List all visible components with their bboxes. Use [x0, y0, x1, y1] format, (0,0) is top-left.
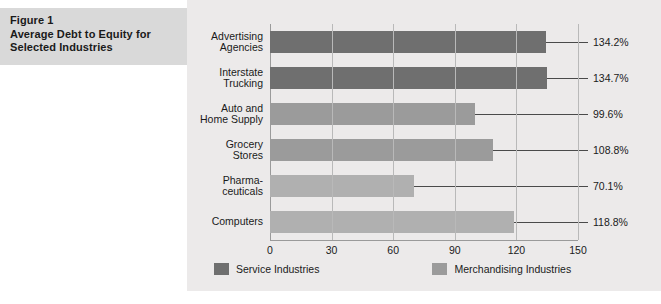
value-label: 99.6%: [593, 108, 623, 120]
value-label: 134.7%: [593, 72, 629, 84]
value-label: 118.8%: [593, 216, 628, 228]
category-label: Pharma-ceuticals: [113, 175, 263, 198]
bar: [270, 139, 493, 161]
plot-area: AdvertisingAgencies134.2%InterstateTruck…: [270, 24, 578, 240]
value-leader-line: [475, 114, 588, 115]
chart-legend: Service IndustriesMerchandising Industri…: [214, 263, 661, 275]
value-leader-line: [546, 42, 588, 43]
legend-swatch: [432, 263, 447, 275]
bar: [270, 31, 546, 53]
x-axis-tick-label: 120: [508, 244, 526, 256]
legend-item: Merchandising Industries: [432, 263, 571, 275]
chart-panel: AdvertisingAgencies134.2%InterstateTruck…: [187, 0, 661, 291]
gridline: [578, 24, 579, 240]
value-leader-line: [547, 78, 588, 79]
x-axis-tick-label: 90: [449, 244, 461, 256]
category-label: Computers: [113, 216, 263, 228]
x-axis-tick-label: 30: [326, 244, 338, 256]
bar: [270, 67, 547, 89]
legend-label: Merchandising Industries: [454, 263, 571, 275]
value-leader-line: [414, 186, 588, 187]
x-axis-tick-label: 150: [569, 244, 587, 256]
gridline: [455, 24, 456, 240]
gridline: [516, 24, 517, 240]
category-label: GroceryStores: [113, 139, 263, 162]
gridline: [393, 24, 394, 240]
gridline: [332, 24, 333, 240]
x-axis-line: [270, 240, 578, 241]
figure-number: Figure 1: [10, 14, 177, 28]
bar: [270, 103, 475, 125]
legend-item: Service Industries: [214, 263, 319, 275]
figure-container: Figure 1 Average Debt to Equity for Sele…: [0, 0, 661, 304]
x-axis-tick-label: 60: [387, 244, 399, 256]
legend-label: Service Industries: [236, 263, 319, 275]
category-label: AdvertisingAgencies: [113, 31, 263, 54]
category-label: InterstateTrucking: [113, 67, 263, 90]
category-label: Auto andHome Supply: [113, 103, 263, 126]
value-leader-line: [493, 150, 588, 151]
value-leader-line: [514, 222, 588, 223]
x-axis-tick-label: 0: [267, 244, 273, 256]
value-label: 70.1%: [593, 180, 623, 192]
legend-swatch: [214, 263, 229, 275]
value-label: 108.8%: [593, 144, 629, 156]
bar: [270, 211, 514, 233]
value-label: 134.2%: [593, 36, 629, 48]
y-axis-line: [270, 24, 271, 240]
